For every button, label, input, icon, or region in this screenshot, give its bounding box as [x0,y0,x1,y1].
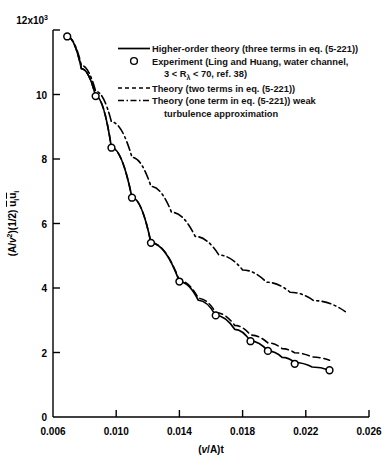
y-tick-label: 8 [41,154,47,165]
x-tick-label: 0.006 [40,426,65,437]
data-point-marker [148,239,155,246]
y-tick-label: 6 [41,219,47,230]
legend-label: Theory (one term in eq. (5-221)) weak [152,96,317,106]
x-axis-label: (v/A)t [198,444,224,455]
data-point-marker [212,312,219,319]
data-point-marker [247,338,254,345]
x-tick-label: 0.018 [230,426,255,437]
data-point-marker [326,367,333,374]
x-tick-label: 0.026 [356,426,381,437]
y-tick-label: 2 [41,348,47,359]
legend-label: Theory (two terms in eq. (5-221)) [152,84,295,94]
x-tick-label: 0.022 [293,426,318,437]
data-point-marker [176,278,183,285]
x-tick-label: 0.010 [104,426,129,437]
legend-label: Experiment (Ling and Huang, water channe… [152,57,348,67]
data-point-marker [129,194,136,201]
legend-item-higher-order-theory: Higher-order theory (three terms in eq. … [118,44,358,54]
data-point-marker [291,360,298,367]
legend-label: Higher-order theory (three terms in eq. … [152,44,358,54]
legend-marker-open-circle [131,58,138,65]
y-tick-label-top: 12x103 [16,14,48,26]
y-tick-label: 0 [41,412,47,423]
chart-canvas: 024681012x1030.0060.0100.0140.0180.0220.… [0,0,388,458]
y-tick-label: 4 [41,283,47,294]
y-tick-label: 10 [36,90,48,101]
legend-label-line2: turbulence approximation [164,109,278,119]
data-point-marker [92,93,99,100]
x-tick-label: 0.014 [167,426,192,437]
chart-figure: 024681012x1030.0060.0100.0140.0180.0220.… [0,0,388,458]
data-point-marker [108,144,115,151]
data-point-marker [64,33,71,40]
data-point-marker [264,347,271,354]
